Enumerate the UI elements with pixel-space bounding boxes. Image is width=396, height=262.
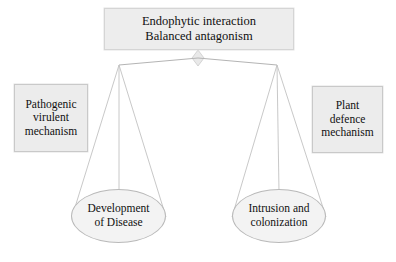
development-of-disease-ellipse: Development of Disease <box>71 189 166 243</box>
intrusion-and-colonization-ellipse: Intrusion and colonization <box>232 189 326 243</box>
diagram-canvas: Endophytic interaction Balanced antagoni… <box>0 0 396 262</box>
plant-defence-mechanism-box: Plant defence mechanism <box>312 86 383 153</box>
development-of-disease-label: Development of Disease <box>88 202 150 229</box>
endophytic-interaction-box: Endophytic interaction Balanced antagoni… <box>104 8 294 50</box>
intrusion-and-colonization-label: Intrusion and colonization <box>248 202 309 229</box>
pathogenic-virulent-mechanism-label: Pathogenic virulent mechanism <box>25 98 77 139</box>
pathogenic-virulent-mechanism-box: Pathogenic virulent mechanism <box>14 84 88 152</box>
plant-defence-mechanism-label: Plant defence mechanism <box>321 99 373 140</box>
right-string-center <box>277 65 279 192</box>
endophytic-interaction-label: Endophytic interaction Balanced antagoni… <box>142 14 256 44</box>
